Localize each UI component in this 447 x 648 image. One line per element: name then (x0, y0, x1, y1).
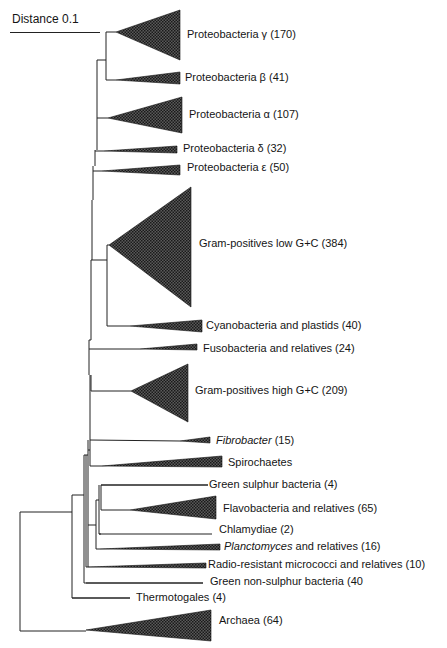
clade-count: (10) (402, 558, 425, 570)
clade-name: Fusobacteria and relatives (203, 342, 332, 354)
spirochaetes-wedge (102, 456, 222, 467)
clade-count: (170) (267, 28, 296, 40)
proteo-delta-wedge (104, 146, 177, 153)
proteo-epsilon-wedge (102, 165, 180, 175)
clade-count: (41) (266, 71, 289, 83)
clade-count: (15) (272, 434, 295, 446)
clade-name: Gram-positives low G+C (199, 237, 319, 249)
clade-name: Proteobacteria δ (183, 142, 264, 154)
clade-count: (40 (344, 575, 363, 587)
clade-name: Archaea (219, 614, 260, 626)
clade-label-radio-resistant: Radio-resistant micrococci and relatives… (208, 558, 425, 571)
clade-label-thermotogales: Thermotogales (4) (136, 591, 226, 604)
clade-label-fusobacteria: Fusobacteria and relatives (24) (203, 342, 355, 355)
clade-count: (32) (264, 142, 287, 154)
clade-count: (209) (319, 384, 348, 396)
clade-name: Green non-sulphur bacteria (210, 575, 344, 587)
clade-count: (107) (270, 108, 299, 120)
clade-name: Spirochaetes (228, 456, 292, 468)
clade-label-spirochaetes: Spirochaetes (228, 456, 292, 469)
proteo-gamma-wedge (116, 10, 180, 60)
clade-name: Thermotogales (136, 591, 209, 603)
clade-count: and relatives (16) (292, 540, 380, 552)
clade-label-proteo-beta: Proteobacteria β (41) (185, 71, 289, 84)
branch-line (90, 440, 180, 441)
clade-count: (4) (321, 478, 338, 490)
clade-label-flavobacteria: Flavobacteria and relatives (65) (223, 502, 377, 515)
clade-name: Green sulphur bacteria (209, 478, 321, 490)
clade-name: Flavobacteria and relatives (223, 502, 354, 514)
gram-pos-high-gc-wedge (131, 364, 188, 422)
clade-count: (64) (260, 614, 283, 626)
planctomyces-wedge (100, 544, 220, 550)
clade-count: (2) (277, 523, 294, 535)
cyanobacteria-wedge (130, 320, 202, 332)
proteo-alpha-wedge (108, 97, 182, 133)
clade-label-gram-pos-high-gc: Gram-positives high G+C (209) (195, 384, 348, 397)
clade-label-proteo-epsilon: Proteobacteria ε (50) (187, 161, 289, 174)
clade-count: (50) (267, 161, 290, 173)
clade-label-gram-pos-low-gc: Gram-positives low G+C (384) (199, 237, 347, 250)
clade-name: Gram-positives high G+C (195, 384, 319, 396)
clade-label-fibrobacter: Fibrobacter (15) (216, 434, 294, 447)
clade-label-planctomyces: Planctomyces and relatives (16) (224, 540, 381, 553)
clade-label-proteo-delta: Proteobacteria δ (32) (183, 142, 286, 155)
clade-name: Radio-resistant micrococci and relatives (208, 558, 402, 570)
clade-count: (40) (339, 319, 362, 331)
clade-label-proteo-alpha: Proteobacteria α (107) (189, 108, 299, 121)
flavobacteria-wedge (130, 496, 216, 519)
clade-label-green-sulphur: Green sulphur bacteria (4) (209, 478, 337, 491)
fibrobacter-wedge (180, 437, 210, 443)
clade-label-cyanobacteria: Cyanobacteria and plastids (40) (206, 319, 361, 332)
archaea-wedge (86, 610, 211, 641)
proteo-beta-wedge (116, 72, 180, 84)
clade-label-proteo-gamma: Proteobacteria γ (170) (187, 28, 296, 41)
clade-count: (384) (319, 237, 348, 249)
clade-name: Cyanobacteria and plastids (206, 319, 339, 331)
clade-label-green-non-sulphur: Green non-sulphur bacteria (40 (210, 575, 363, 588)
clade-count: (24) (332, 342, 355, 354)
radio-resistant-wedge (88, 563, 206, 568)
clade-wedges (72, 10, 222, 641)
clade-name: Proteobacteria β (185, 71, 266, 83)
gram-pos-low-gc-wedge (109, 187, 191, 307)
fusobacteria-wedge (140, 344, 197, 350)
clade-count: (4) (209, 591, 226, 603)
clade-name: Chlamydiae (219, 523, 277, 535)
clade-label-archaea: Archaea (64) (219, 614, 283, 627)
clade-label-chlamydiae: Chlamydiae (2) (219, 523, 294, 536)
clade-name: Planctomyces (224, 540, 292, 552)
clade-name: Proteobacteria γ (187, 28, 267, 40)
clade-name: Fibrobacter (216, 434, 272, 446)
clade-name: Proteobacteria ε (187, 161, 267, 173)
clade-count: (65) (354, 502, 377, 514)
clade-name: Proteobacteria α (189, 108, 270, 120)
